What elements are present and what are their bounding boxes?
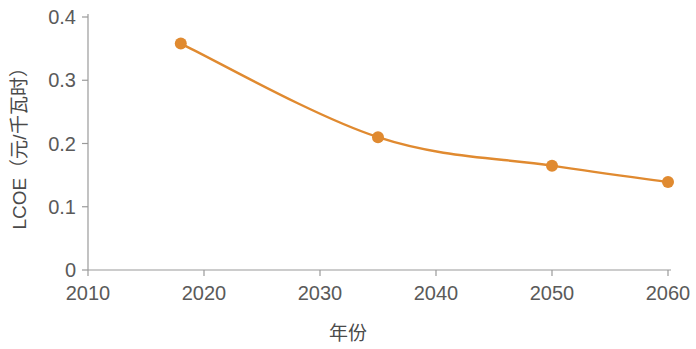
x-tick-label: 2050	[530, 282, 575, 304]
series-line-lcoe	[181, 44, 668, 183]
y-axis-ticks	[82, 17, 88, 270]
x-axis-title: 年份	[329, 323, 367, 344]
x-axis-ticks	[88, 270, 668, 276]
x-tick-label: 2020	[182, 282, 227, 304]
x-axis-tick-labels: 201020202030204020502060	[66, 282, 691, 304]
chart-figure: 00.10.20.30.4 201020202030204020502060 年…	[0, 0, 696, 349]
data-point-marker	[372, 131, 384, 143]
y-tick-label: 0.4	[48, 6, 76, 28]
y-tick-label: 0.2	[48, 133, 76, 155]
y-axis-tick-labels: 00.10.20.30.4	[48, 6, 76, 281]
data-point-marker	[546, 160, 558, 172]
data-point-marker	[662, 176, 674, 188]
y-tick-label: 0.1	[48, 196, 76, 218]
x-tick-label: 2040	[414, 282, 459, 304]
y-axis-title: LCOE（元/千瓦时）	[9, 58, 30, 229]
data-point-marker	[175, 38, 187, 50]
y-tick-label: 0.3	[48, 69, 76, 91]
y-tick-label: 0	[65, 259, 76, 281]
line-chart: 00.10.20.30.4 201020202030204020502060 年…	[0, 0, 696, 349]
x-tick-label: 2030	[298, 282, 343, 304]
series-lcoe	[175, 38, 674, 189]
x-tick-label: 2010	[66, 282, 111, 304]
x-tick-label: 2060	[646, 282, 691, 304]
series-markers-lcoe	[175, 38, 674, 189]
